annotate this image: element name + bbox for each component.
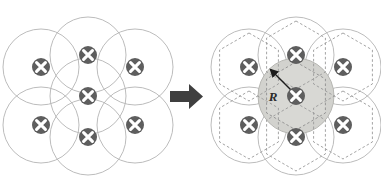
- atom-bottom: [79, 128, 97, 146]
- radius-label: R: [268, 89, 278, 104]
- figure-container: R: [0, 0, 381, 191]
- transforms-to-arrow: [170, 84, 203, 109]
- packing-diagram-svg: R: [0, 0, 381, 191]
- atom-upper-right: [334, 58, 352, 76]
- atom-bottom: [287, 128, 305, 146]
- atom-center: [79, 87, 97, 105]
- atom-lower-left: [240, 116, 258, 134]
- atom-top: [287, 46, 305, 64]
- right-panel-group: R: [211, 17, 381, 175]
- atom-lower-right: [334, 116, 352, 134]
- atom-top: [79, 46, 97, 64]
- left-panel-group: [3, 17, 173, 175]
- atom-center: [287, 87, 305, 105]
- atom-upper-left: [240, 58, 258, 76]
- atom-lower-right: [126, 116, 144, 134]
- left-atoms: [32, 46, 144, 146]
- atom-upper-left: [32, 58, 50, 76]
- atom-lower-left: [32, 116, 50, 134]
- atom-upper-right: [126, 58, 144, 76]
